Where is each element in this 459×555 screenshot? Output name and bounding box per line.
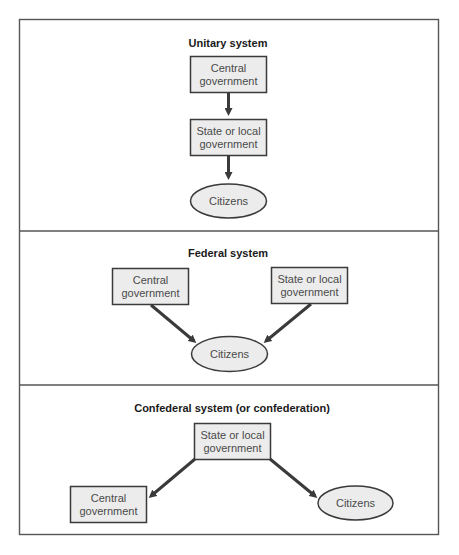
section-title: Confederal system (or confederation) [134,402,330,414]
svg-text:government: government [199,138,257,150]
svg-text:government: government [280,286,338,298]
svg-text:government: government [203,442,261,454]
svg-text:government: government [121,287,179,299]
confederal-system-section: Confederal system (or confederation) Sta… [71,402,394,523]
svg-text:State or local: State or local [196,125,260,137]
unitary-system-section: Unitary system Central government State … [189,37,268,218]
arrow-icon [151,305,194,341]
section-title: Unitary system [189,37,268,49]
arrow-icon [151,459,195,496]
svg-text:State or local: State or local [200,429,264,441]
svg-text:State or local: State or local [277,273,341,285]
svg-text:government: government [199,75,257,87]
svg-text:Citizens: Citizens [209,195,249,207]
svg-text:Central: Central [211,62,246,74]
svg-text:government: government [79,505,137,517]
government-systems-diagram: Unitary system Central government State … [0,0,459,555]
svg-text:Central: Central [133,274,168,286]
svg-text:Citizens: Citizens [336,497,376,509]
arrow-icon [270,459,315,496]
svg-text:Citizens: Citizens [210,348,250,360]
arrow-icon [266,304,311,341]
svg-text:Central: Central [91,492,126,504]
section-title: Federal system [188,247,268,259]
federal-system-section: Federal system Central government State … [113,247,348,372]
